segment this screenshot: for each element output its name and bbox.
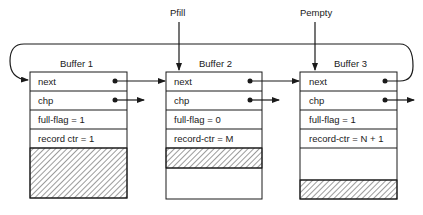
buffer-2-field-full-flag: full-flag = 0 xyxy=(174,115,221,125)
chp-pointer-3 xyxy=(383,98,415,103)
buffer-2-title: Buffer 2 xyxy=(199,59,232,69)
buffer-1-field-chp: chp xyxy=(38,96,53,106)
buffer-2-field-chp: chp xyxy=(174,96,189,106)
buffer-2-field-next: next xyxy=(174,77,192,87)
buffer-3-field-full-flag: full-flag = 1 xyxy=(309,115,356,125)
next-pointer-1-to-2 xyxy=(113,79,166,84)
chp-pointer-2 xyxy=(248,98,280,103)
buffer-1-field-next: next xyxy=(38,77,56,87)
buffer-3-field-chp: chp xyxy=(309,96,324,106)
buffer-3-title: Buffer 3 xyxy=(334,59,367,69)
pempty-label: Pempty xyxy=(300,8,332,18)
buffer-ring-diagram xyxy=(0,0,423,215)
chp-pointer-1 xyxy=(113,98,145,103)
next-pointer-2-to-3 xyxy=(248,79,300,84)
buffer-1-field-full-flag: full-flag = 1 xyxy=(38,115,85,125)
pfill-label: Pfill xyxy=(170,8,185,18)
buffer-3-field-next: next xyxy=(309,77,327,87)
buffer-2-field-record-ctr: record-ctr = M xyxy=(174,134,233,144)
buffer-3-field-record-ctr: record-ctr = N + 1 xyxy=(309,134,383,144)
buffer-1-title: Buffer 1 xyxy=(60,59,93,69)
buffer-1-field-record-ctr: record ctr = 1 xyxy=(38,134,94,144)
